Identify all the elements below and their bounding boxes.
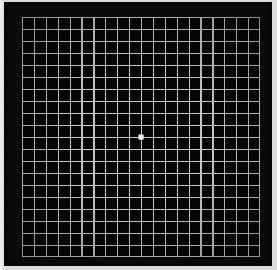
fixation-dot[interactable] [139, 135, 144, 140]
grid-edge-right-line [259, 17, 260, 257]
grid-edge-bottom-line [22, 256, 260, 257]
amsler-grid-field[interactable] [22, 17, 260, 257]
amsler-grid-page: Amsler Grid Amsler grid eye test chart: … [0, 0, 277, 270]
chart-frame [4, 2, 272, 266]
